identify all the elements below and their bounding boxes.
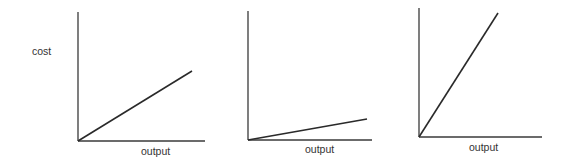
chart-2-cost-line [248,119,367,140]
chart-3-output-label: output [469,141,498,153]
chart-1: cost output [32,12,205,157]
chart-3: output [419,8,542,153]
cost-output-diagrams: cost output output output [0,0,570,166]
chart-3-cost-line [419,13,498,137]
cost-axis-label: cost [32,45,51,57]
chart-1-cost-line [78,71,192,141]
chart-2: output [248,11,372,155]
chart-1-output-label: output [141,145,170,157]
chart-2-output-label: output [305,143,334,155]
